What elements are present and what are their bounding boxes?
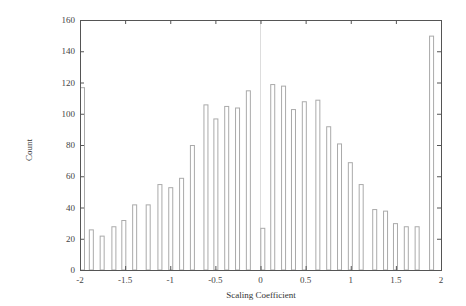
histogram-bar <box>327 127 331 270</box>
histogram-bar <box>302 102 306 270</box>
histogram-bars <box>81 36 434 270</box>
histogram-bar <box>214 119 218 270</box>
histogram-bar <box>261 228 265 270</box>
histogram-bar <box>430 36 434 270</box>
x-tick-label: 1.5 <box>390 275 402 285</box>
y-tick-label: 80 <box>66 140 76 150</box>
histogram-bar <box>236 108 240 270</box>
histogram-bar <box>338 144 342 270</box>
histogram-bar <box>373 210 377 270</box>
y-tick-label: 60 <box>66 171 76 181</box>
x-tick-label: -1 <box>167 275 175 285</box>
histogram-bar <box>316 100 320 270</box>
histogram-bar <box>404 227 408 270</box>
y-tick-label: 120 <box>62 78 76 88</box>
histogram-bar <box>180 178 184 270</box>
histogram-bar <box>384 211 388 270</box>
histogram-bar <box>133 205 137 270</box>
y-tick-label: 20 <box>66 234 76 244</box>
x-axis-title: Scaling Coefficient <box>226 290 296 300</box>
x-tick-label: -1.5 <box>118 275 133 285</box>
histogram-bar <box>146 205 150 270</box>
histogram-bar <box>271 85 275 270</box>
histogram-bar <box>158 185 162 270</box>
histogram-bar <box>100 236 104 270</box>
x-axis-ticks: -2-1.5-1-0.500.511.52 <box>76 20 443 285</box>
histogram-chart: -2-1.5-1-0.500.511.52 020406080100120140… <box>0 0 466 306</box>
histogram-bar <box>122 221 126 271</box>
histogram-bar <box>89 230 93 270</box>
x-tick-label: 2 <box>439 275 444 285</box>
histogram-bar <box>359 185 363 270</box>
y-tick-label: 40 <box>66 203 76 213</box>
histogram-bar <box>348 163 352 270</box>
histogram-bar <box>81 88 85 270</box>
histogram-bar <box>204 105 208 270</box>
histogram-bar <box>190 146 194 271</box>
y-tick-label: 0 <box>71 265 76 275</box>
histogram-bar <box>291 110 295 270</box>
histogram-bar <box>225 106 229 270</box>
histogram-bar <box>246 91 250 270</box>
histogram-bar <box>415 227 419 270</box>
histogram-bar <box>169 188 173 270</box>
y-axis-title: Count <box>24 139 34 162</box>
y-tick-label: 140 <box>62 46 76 56</box>
y-tick-label: 100 <box>62 109 76 119</box>
x-tick-label: -0.5 <box>208 275 223 285</box>
histogram-bar <box>282 86 286 270</box>
x-tick-label: 0 <box>258 275 263 285</box>
x-tick-label: 1 <box>349 275 354 285</box>
y-tick-label: 160 <box>62 15 76 25</box>
histogram-bar <box>393 224 397 270</box>
x-tick-label: -2 <box>76 275 84 285</box>
x-tick-label: 0.5 <box>300 275 312 285</box>
histogram-bar <box>112 227 116 270</box>
